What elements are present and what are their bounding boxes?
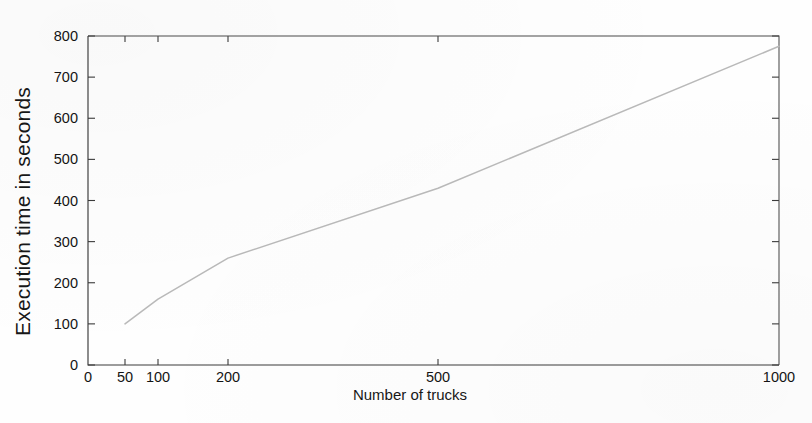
- plot-frame: [88, 36, 779, 365]
- plot-axes: [88, 36, 779, 365]
- data-series-line: [125, 46, 779, 324]
- chart-figure: Execution time in seconds Number of truc…: [0, 0, 812, 423]
- plot-canvas: [0, 0, 812, 423]
- tick-marks-group: [88, 36, 779, 365]
